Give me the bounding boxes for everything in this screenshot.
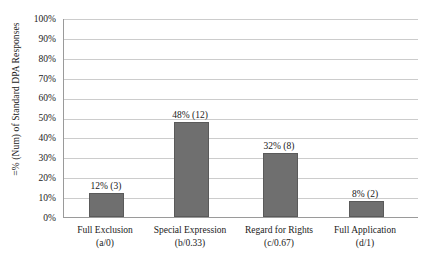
y-tick-label: 0% <box>14 213 56 223</box>
y-tick-label: 10% <box>14 193 56 203</box>
gridline <box>64 59 418 60</box>
y-tick-label: 70% <box>14 74 56 84</box>
bar-regard-for-rights[interactable] <box>263 153 298 217</box>
x-category-label: Regard for Rights <box>245 225 313 235</box>
bar-full-application[interactable] <box>349 201 384 217</box>
x-category-label: Full Exclusion <box>77 225 133 235</box>
y-tick-label: 100% <box>14 14 56 24</box>
gridline <box>64 119 418 120</box>
bar-value-label: 12% (3) <box>58 181 154 191</box>
x-category-label: Full Application <box>334 225 396 235</box>
y-tick-label: 90% <box>14 34 56 44</box>
gridline <box>64 39 418 40</box>
x-category-full-application: Full Application (d/1) <box>305 224 425 249</box>
y-tick-label: 50% <box>14 113 56 123</box>
y-tick-label: 60% <box>14 93 56 103</box>
bar-value-label: 8% (2) <box>317 189 413 199</box>
y-tick-label: 80% <box>14 54 56 64</box>
y-tick-label: 20% <box>14 173 56 183</box>
gridline <box>64 99 418 100</box>
gridline <box>64 158 418 159</box>
x-category-sublabel: (d/1) <box>305 237 425 250</box>
gridline <box>64 178 418 179</box>
bar-chart: =% (Num) of Standard DPA Responses 100% … <box>0 0 428 264</box>
bar-special-expression[interactable] <box>174 122 209 218</box>
gridline <box>64 79 418 80</box>
bar-value-label: 48% (12) <box>142 110 238 120</box>
y-tick-label: 30% <box>14 153 56 163</box>
gridline <box>64 19 418 20</box>
bar-value-label: 32% (8) <box>231 141 327 151</box>
bar-full-exclusion[interactable] <box>89 193 124 217</box>
x-category-label: Special Expression <box>154 225 227 235</box>
gridline <box>64 138 418 139</box>
y-tick-label: 40% <box>14 133 56 143</box>
